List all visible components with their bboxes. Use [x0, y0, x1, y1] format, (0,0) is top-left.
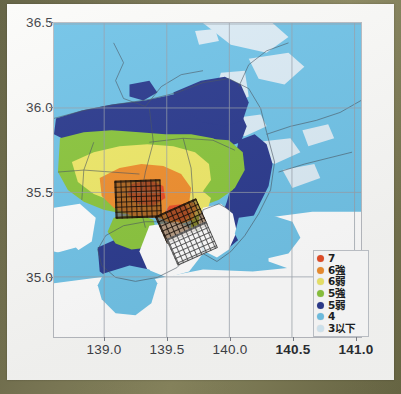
paper-sheet: 7 6強 6弱 5強 5弱: [7, 4, 394, 380]
x-tick-mark: [230, 337, 231, 341]
legend-swatch-3-or-less: [317, 325, 324, 332]
legend-swatch-5-weak: [317, 302, 324, 309]
legend-swatch-4: [317, 313, 324, 320]
legend-item[interactable]: 6弱: [317, 276, 366, 288]
legend-label: 5弱: [328, 300, 345, 311]
rupture-mesh-north: [114, 179, 161, 219]
legend-swatch-7: [317, 255, 324, 262]
legend-item[interactable]: 3以下: [317, 323, 366, 335]
legend-label: 4: [328, 311, 335, 322]
legend-item[interactable]: 4: [317, 311, 366, 323]
legend-swatch-6-strong: [317, 267, 324, 274]
legend-label: 7: [328, 253, 335, 264]
photo-background: 7 6強 6弱 5強 5弱: [0, 0, 401, 394]
legend-swatch-5-strong: [317, 290, 324, 297]
intensity-legend[interactable]: 7 6強 6弱 5強 5弱: [313, 250, 369, 337]
y-tick-mark: [49, 277, 53, 278]
x-tick-mark: [167, 337, 168, 341]
y-tick-mark: [49, 22, 53, 23]
x-tick-label-140-0: 140.0: [213, 342, 248, 357]
legend-label: 6弱: [328, 276, 345, 287]
seismic-intensity-figure: 7 6強 6弱 5強 5弱: [7, 4, 394, 380]
x-tick-label-139-5: 139.5: [150, 342, 185, 357]
y-tick-mark: [49, 107, 53, 108]
x-tick-mark: [293, 337, 294, 341]
y-tick-mark: [49, 192, 53, 193]
x-tick-mark: [104, 337, 105, 341]
legend-label: 5強: [328, 288, 345, 299]
legend-item[interactable]: 6強: [317, 265, 366, 277]
x-tick-label-140-5: 140.5: [276, 342, 311, 357]
legend-label: 3以下: [328, 323, 355, 334]
legend-label: 6強: [328, 265, 345, 276]
legend-item[interactable]: 5弱: [317, 299, 366, 311]
legend-swatch-6-weak: [317, 278, 324, 285]
x-tick-label-141-0: 141.0: [339, 342, 374, 357]
x-tick-mark: [356, 337, 357, 341]
legend-item[interactable]: 5強: [317, 288, 366, 300]
legend-item[interactable]: 7: [317, 253, 366, 265]
x-tick-label-139-0: 139.0: [87, 342, 122, 357]
